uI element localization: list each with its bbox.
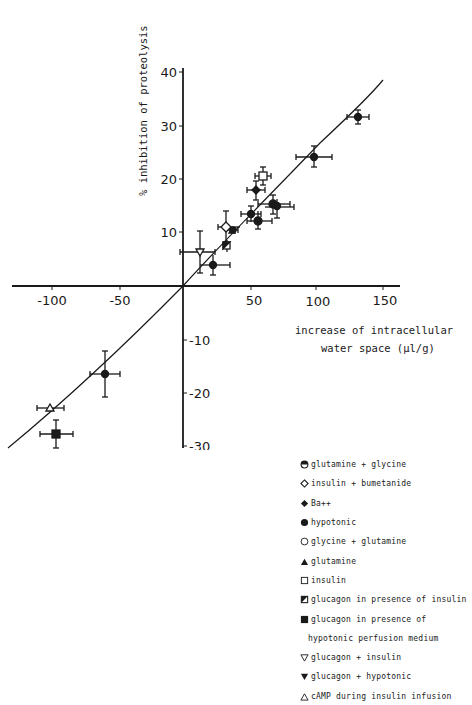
half-filled-square-icon <box>300 595 309 604</box>
y-tick-label: -20 <box>189 386 210 401</box>
legend-label: glucagon in presence of <box>311 615 426 624</box>
open-circle-icon <box>300 537 309 546</box>
legend-label: insulin <box>311 576 346 585</box>
legend-item: glucagon in presence of <box>300 609 472 628</box>
x-axis-title-line2: water space (µl/g) <box>321 342 435 354</box>
legend-item: glucagon + insulin <box>300 648 472 667</box>
filled-triangle-icon <box>300 557 309 566</box>
data-point <box>296 146 332 167</box>
data-point <box>37 404 64 411</box>
legend-item: glucagon + hypotonic <box>300 667 472 686</box>
scatter-chart: -100 -50 50 100 150 increase of intracel… <box>0 0 472 450</box>
legend-label: glucagon + insulin <box>311 653 401 662</box>
data-point <box>218 211 240 245</box>
legend-item: insulin <box>300 571 472 590</box>
filled-diamond-icon <box>300 499 309 508</box>
legend: glutamine + glycine insulin + bumetanide… <box>300 455 472 705</box>
filled-triangle-down-icon <box>300 672 309 681</box>
legend-label: glutamine + glycine <box>311 460 406 469</box>
y-tick-label: -30 <box>189 439 210 450</box>
y-axis-title: % inhibition of proteolysis <box>137 25 149 196</box>
y-tick-label: 10 <box>160 225 177 240</box>
legend-label: glucagon + hypotonic <box>311 672 411 681</box>
x-tick-label: -100 <box>37 293 67 308</box>
x-axis: -100 -50 50 100 150 increase of intracel… <box>12 286 453 354</box>
y-tick-label: 30 <box>160 119 177 134</box>
legend-item: glutamine + glycine <box>300 455 472 474</box>
x-tick-label: 100 <box>306 294 331 309</box>
legend-label: glycine + glutamine <box>311 537 406 546</box>
legend-item: glutamine <box>300 551 472 570</box>
x-tick-label: 150 <box>373 293 398 308</box>
x-tick-label: -50 <box>109 293 130 308</box>
legend-label: insulin + bumetanide <box>311 479 411 488</box>
legend-item: hypotonic <box>300 513 472 532</box>
data-point <box>247 181 265 200</box>
data-point <box>40 420 73 448</box>
legend-item: cAMP during insulin infusion <box>300 687 472 705</box>
y-tick-label: -10 <box>189 333 210 348</box>
open-diamond-icon <box>300 479 309 488</box>
open-triangle-down-icon <box>300 653 309 662</box>
data-point <box>200 255 230 275</box>
filled-circle-icon <box>300 518 309 527</box>
half-filled-circle-icon <box>300 460 309 469</box>
open-square-icon <box>300 576 309 585</box>
legend-label: glucagon in presence of insulin <box>311 595 467 604</box>
legend-item: glycine + glutamine <box>300 532 472 551</box>
data-point <box>90 351 120 397</box>
legend-label: hypotonic <box>311 518 356 527</box>
x-axis-title-line1: increase of intracellular <box>295 324 453 336</box>
legend-item-continuation: hypotonic perfusion medium <box>300 629 472 648</box>
open-triangle-icon <box>300 692 309 701</box>
legend-label: cAMP during insulin infusion <box>311 692 451 701</box>
legend-item: Ba++ <box>300 494 472 513</box>
legend-item: insulin + bumetanide <box>300 474 472 493</box>
x-tick-label: 50 <box>246 293 263 308</box>
data-point <box>347 110 369 124</box>
y-tick-label: 40 <box>160 65 177 80</box>
legend-label: glutamine <box>311 557 356 566</box>
data-point <box>258 195 294 218</box>
filled-square-icon <box>300 615 309 624</box>
data-point <box>255 167 271 185</box>
y-axis: 40 30 20 10 -10 -20 -30 % inhibition of … <box>137 25 210 450</box>
legend-label: Ba++ <box>311 499 331 508</box>
y-tick-label: 20 <box>160 172 177 187</box>
legend-item: glucagon in presence of insulin <box>300 590 472 609</box>
data-point <box>223 240 230 252</box>
legend-label: hypotonic perfusion medium <box>308 634 438 643</box>
